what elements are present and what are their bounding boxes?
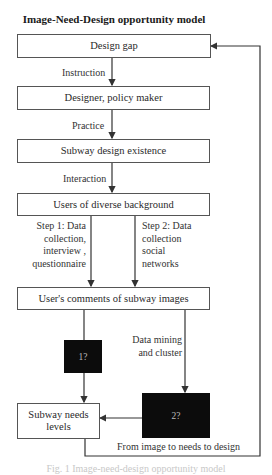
step2-line: collection [142, 233, 191, 246]
edge-label-instruction: Instruction [62, 67, 105, 80]
needs-line-2: levels [46, 421, 71, 433]
edge-label-feedback: From image to needs to design [117, 441, 240, 454]
edge-label-interaction: Interaction [63, 173, 106, 186]
edge-label-practice: Practice [72, 120, 104, 133]
step1-line: Step 1: Data [28, 220, 86, 233]
mining-line: Data mining [124, 334, 182, 347]
node-designer-policy-maker: Designer, policy maker [17, 86, 210, 110]
step2-line: social [142, 245, 191, 258]
step1-line: collection, [28, 233, 86, 246]
step2-line: networks [142, 258, 191, 271]
node-unknown-2: 2? [142, 393, 210, 438]
edge-label-step2: Step 2: Data collection social networks [142, 220, 191, 270]
node-unknown-1: 1? [64, 340, 102, 373]
step2-line: Step 2: Data [142, 220, 191, 233]
node-design-gap: Design gap [17, 34, 211, 58]
needs-line-1: Subway needs [28, 409, 88, 421]
figure-caption: Fig. 1 Image-need-design opportunity mod… [0, 463, 272, 474]
edge-label-data-mining: Data mining and cluster [124, 334, 182, 359]
node-subway-design-existence: Subway design existence [17, 139, 210, 163]
node-users-comments: User's comments of subway images [17, 287, 210, 310]
edge-label-step1: Step 1: Data collection, interview , que… [28, 220, 86, 270]
node-subway-needs-levels: Subway needs levels [17, 403, 100, 439]
node-users-diverse-background: Users of diverse background [17, 193, 210, 216]
step1-line: interview , [28, 245, 86, 258]
step1-line: questionnaire [28, 258, 86, 271]
mining-line: and cluster [124, 347, 182, 360]
